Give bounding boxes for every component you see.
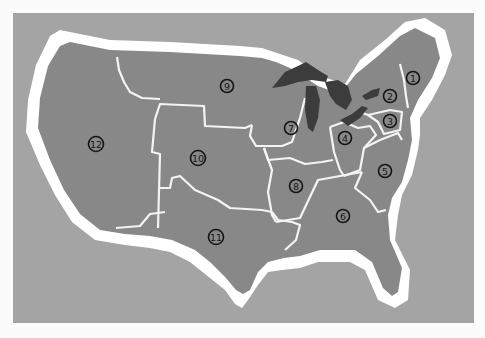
- marker-label: 2: [387, 91, 393, 102]
- region-marker-12: 12: [89, 137, 104, 152]
- region-marker-10: 10: [191, 151, 206, 166]
- map-frame: 123456789101112: [13, 13, 474, 323]
- marker-label: 10: [192, 153, 204, 164]
- marker-label: 3: [387, 116, 393, 127]
- marker-label: 5: [382, 166, 388, 177]
- region-marker-11: 11: [209, 230, 224, 245]
- marker-label: 7: [288, 123, 294, 134]
- marker-label: 8: [293, 181, 299, 192]
- marker-label: 1: [410, 73, 416, 84]
- marker-label: 4: [342, 133, 348, 144]
- marker-label: 11: [210, 232, 222, 243]
- marker-label: 6: [340, 211, 346, 222]
- us-district-map: 123456789101112: [13, 13, 474, 323]
- marker-label: 9: [224, 81, 230, 92]
- marker-label: 12: [90, 139, 102, 150]
